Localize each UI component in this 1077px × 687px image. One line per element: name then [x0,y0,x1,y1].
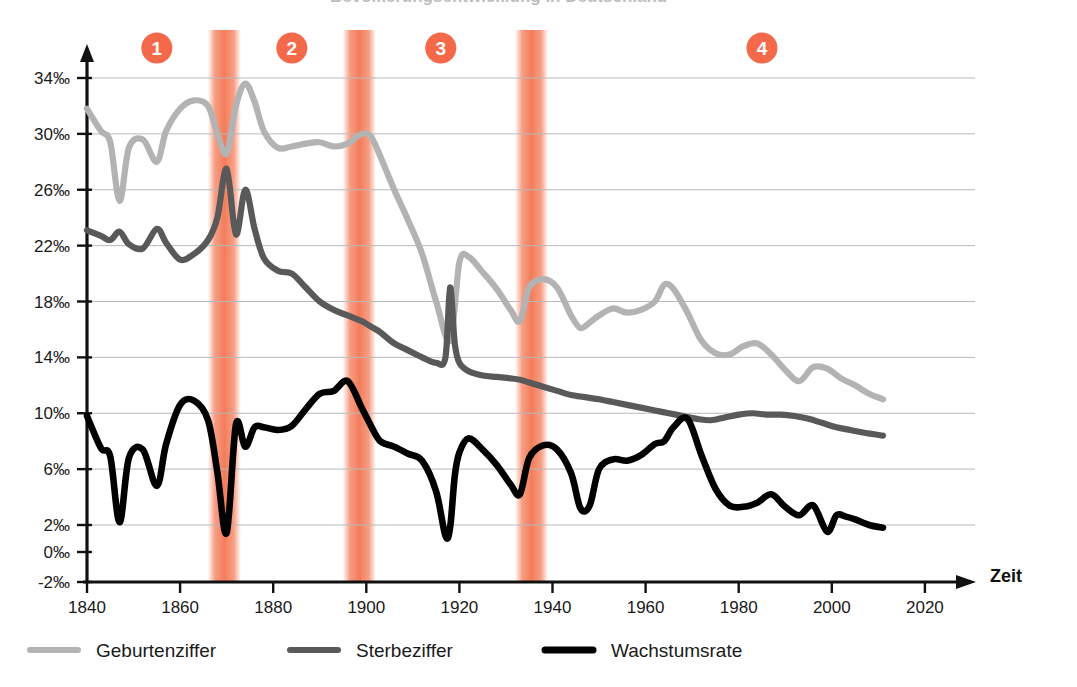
highlight-band-3 [515,30,548,582]
y-axis-tick-label: 26‰ [34,181,70,200]
y-axis-tick-label: 22‰ [34,237,70,256]
y-axis-tick-label: 34‰ [34,69,70,88]
x-axis-tick-label: 1900 [347,598,385,617]
x-axis-tick-label: 1920 [440,598,478,617]
x-axis-tick-label: 1960 [627,598,665,617]
series-line-wachstumsrate [87,381,883,539]
y-axis-labels: -2‰0‰2‰6‰10‰14‰18‰22‰26‰30‰34‰ [34,69,70,592]
legend-label-2: Wachstumsrate [611,640,742,661]
x-axis-tick-label: 1980 [720,598,758,617]
y-axis-tick-label: -2‰ [38,573,70,592]
phase-marker-label-3: 3 [435,38,446,59]
x-axis-labels: 1840186018801900192019401960198020002020 [68,598,944,617]
y-axis-tick-label: 6‰ [44,460,70,479]
x-axis-tick-label: 1880 [254,598,292,617]
chart-figure: -2‰0‰2‰6‰10‰14‰18‰22‰26‰30‰34‰ 184018601… [0,0,1077,687]
legend-label-0: Geburtenziffer [96,640,217,661]
x-axis-tick-label: 2020 [906,598,944,617]
legend-label-1: Sterbeziffer [356,640,453,661]
phase-marker-label-4: 4 [757,38,768,59]
y-axis-ticks [77,78,92,582]
y-axis-tick-label: 10‰ [34,404,70,423]
y-axis-arrow [80,44,94,62]
x-axis-title: Zeit [990,566,1022,586]
series-line-sterbeziffer [87,169,883,436]
chart-legend: GeburtenzifferSterbezifferWachstumsrate [30,640,742,661]
x-axis-tick-label: 2000 [813,598,851,617]
phase-marker-label-1: 1 [152,38,163,59]
highlight-band-2 [343,30,376,582]
y-axis-tick-label: 2‰ [44,516,70,535]
x-axis-tick-label: 1840 [68,598,106,617]
data-series [87,84,883,539]
y-axis-tick-label: 30‰ [34,125,70,144]
x-axis-arrow [956,575,976,589]
x-axis-tick-label: 1940 [534,598,572,617]
phase-marker-label-2: 2 [287,38,298,59]
chart-canvas: -2‰0‰2‰6‰10‰14‰18‰22‰26‰30‰34‰ 184018601… [0,0,1077,687]
page-title: Bevölkerungsentwicklung in Deutschland [330,0,667,6]
y-axis-tick-label: 18‰ [34,293,70,312]
y-axis-tick-label: 14‰ [34,348,70,367]
x-axis-tick-label: 1860 [161,598,199,617]
x-axis-ticks [87,582,925,593]
y-axis-tick-label: 0‰ [44,543,70,562]
